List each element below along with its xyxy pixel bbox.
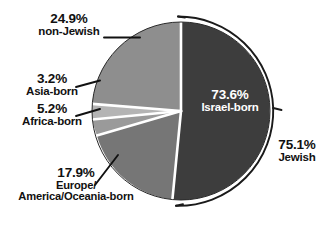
label-africa-born-percent: 5.2% [2, 102, 102, 116]
label-asia-born: 3.2% Asia-born [2, 72, 102, 97]
label-europe-america-oceania-born: 17.9% Europe/ America/Oceania-born [0, 166, 152, 203]
label-non-jewish-name: non-Jewish [14, 26, 124, 38]
label-europe-percent: 17.9% [0, 166, 152, 180]
label-jewish: 75.1% Jewish [264, 138, 330, 163]
label-israel-born: 73.6% Israel-born [188, 88, 272, 113]
label-non-jewish-percent: 24.9% [14, 12, 124, 26]
label-europe-name-line2: America/Oceania-born [0, 191, 152, 202]
label-africa-born: 5.2% Africa-born [2, 102, 102, 127]
label-israel-born-percent: 73.6% [188, 88, 272, 102]
pie-chart: 24.9% non-Jewish 3.2% Asia-born 5.2% Afr… [0, 0, 331, 227]
label-jewish-name: Jewish [264, 152, 330, 164]
label-africa-born-name: Africa-born [2, 116, 102, 128]
label-non-jewish: 24.9% non-Jewish [14, 12, 124, 37]
label-asia-born-percent: 3.2% [2, 72, 102, 86]
label-jewish-percent: 75.1% [264, 138, 330, 152]
label-asia-born-name: Asia-born [2, 86, 102, 98]
label-israel-born-name: Israel-born [188, 102, 272, 114]
